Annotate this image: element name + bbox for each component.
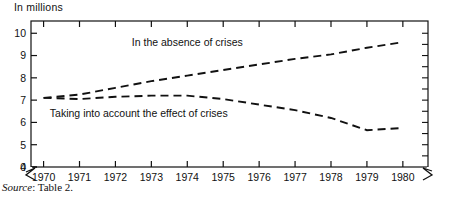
y-tick-label: 7 <box>20 94 26 106</box>
source-label: Source <box>2 181 32 193</box>
x-tick-label: 1979 <box>355 171 379 183</box>
y-axis-ticks-right <box>422 33 428 156</box>
y-axis-ticks <box>31 33 37 167</box>
y-tick-label: 10 <box>14 27 26 39</box>
series-annotation: In the absence of crises <box>132 36 243 48</box>
y-tick-label: 5 <box>20 139 26 151</box>
source-value: Table 2. <box>38 181 73 193</box>
y-tick-label: 6 <box>20 116 26 128</box>
figure-container: In millions 045678910 197019711972197319… <box>0 0 452 198</box>
x-tick-label: 1980 <box>391 171 415 183</box>
x-tick-label: 1973 <box>140 171 164 183</box>
source-note: Source: Table 2. <box>2 181 73 193</box>
x-tick-label: 1975 <box>212 171 236 183</box>
series-line <box>44 42 403 98</box>
y-tick-label: 4 <box>20 161 26 173</box>
source-separator: : <box>32 181 35 193</box>
y-tick-label: 8 <box>20 72 26 84</box>
y-tick-label: 9 <box>20 49 26 61</box>
series-annotation: Taking into account the effect of crises <box>50 107 228 119</box>
x-axis-ticks <box>44 161 403 167</box>
x-tick-label: 1978 <box>319 171 343 183</box>
x-tick-label: 1972 <box>104 171 128 183</box>
x-axis-tick-labels: 1970197119721973197419751976197719781979… <box>32 171 415 183</box>
x-tick-label: 1974 <box>176 171 200 183</box>
x-axis-ticks-top <box>44 21 403 27</box>
x-tick-label: 1977 <box>283 171 307 183</box>
chart-svg: 045678910 197019711972197319741975197619… <box>0 0 452 198</box>
series-annotations: In the absence of crisesTaking into acco… <box>50 36 243 119</box>
x-tick-label: 1976 <box>247 171 271 183</box>
y-axis-tick-labels: 045678910 <box>14 27 26 173</box>
